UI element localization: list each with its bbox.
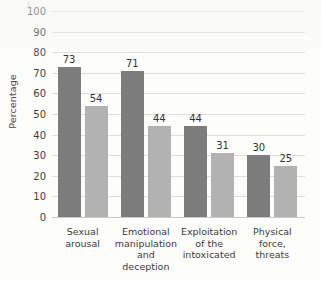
gridline — [52, 52, 305, 53]
y-axis-tick-label: 50 — [33, 109, 46, 120]
gridline — [52, 32, 305, 33]
gridline — [52, 11, 305, 12]
bar-value-label: 44 — [189, 113, 202, 124]
y-axis-tick-label: 0 — [40, 212, 46, 223]
bar-value-label: 73 — [63, 54, 76, 65]
bar-value-label: 25 — [280, 153, 293, 164]
bar — [211, 153, 234, 217]
y-axis-tick-label: 60 — [33, 88, 46, 99]
y-axis-title: Percentage — [7, 66, 18, 138]
y-axis-tick-label: 10 — [33, 191, 46, 202]
x-axis-label-line: deception — [107, 261, 184, 273]
x-axis-label-line: threats — [234, 249, 311, 261]
y-axis-tick-label: 70 — [33, 67, 46, 78]
y-axis-tick-label: 30 — [33, 150, 46, 161]
x-axis-label-line: force, — [234, 238, 311, 250]
bar — [184, 126, 207, 217]
x-axis-label-line: Physical — [234, 226, 311, 238]
y-axis-tick-label: 90 — [33, 26, 46, 37]
bar — [274, 166, 297, 218]
x-axis-category-label: Physicalforce,threats — [234, 226, 311, 261]
bar — [247, 155, 270, 217]
y-axis-tick-label: 20 — [33, 170, 46, 181]
x-axis-baseline — [52, 217, 305, 218]
bar-value-label: 71 — [126, 58, 139, 69]
bar — [121, 71, 144, 217]
bar-value-label: 44 — [153, 113, 166, 124]
y-axis-tick-label: 100 — [27, 6, 46, 17]
y-axis-tick-label: 40 — [33, 129, 46, 140]
plot-area: 10090807060504030201007354Sexualarousal7… — [52, 11, 305, 217]
y-axis-tick-label: 80 — [33, 47, 46, 58]
bar — [85, 106, 108, 217]
bar-value-label: 54 — [90, 93, 103, 104]
gridline — [52, 73, 305, 74]
bar — [148, 126, 171, 217]
bar-value-label: 30 — [253, 142, 266, 153]
bar — [58, 67, 81, 217]
chart-figure: Percentage 10090807060504030201007354Sex… — [0, 0, 321, 281]
bar-value-label: 31 — [216, 140, 229, 151]
